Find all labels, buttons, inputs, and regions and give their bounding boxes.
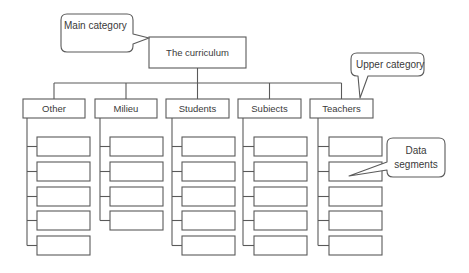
data-segment-box-students-3 (182, 187, 235, 206)
callout-data-segments-text-line1: Data (405, 145, 427, 156)
data-segment-box-other-4 (37, 211, 90, 230)
data-segment-box-other-3 (37, 187, 90, 206)
curriculum-hierarchy-diagram: The curriculum OtherMilieuStudentsSubiec… (0, 0, 469, 273)
root-node: The curriculum (149, 37, 246, 68)
callout-main-category: Main category (61, 14, 149, 52)
data-segment-box-milieu-3 (110, 187, 163, 206)
data-segment-boxes (37, 137, 382, 255)
data-segment-box-milieu-1 (110, 137, 163, 156)
data-segment-box-milieu-4 (110, 211, 163, 230)
data-segment-box-teachers-5 (329, 236, 382, 255)
category-label-other: Other (42, 103, 66, 114)
category-label-students: Students (179, 103, 217, 114)
data-segment-box-students-5 (182, 236, 235, 255)
data-segment-box-other-2 (37, 162, 90, 181)
data-segment-box-subiects-1 (254, 137, 307, 156)
data-segment-box-subiects-5 (254, 236, 307, 255)
callout-upper-category: Upper category (351, 53, 424, 98)
data-segment-box-students-1 (182, 137, 235, 156)
data-segment-box-teachers-1 (329, 137, 382, 156)
data-segment-box-subiects-3 (254, 187, 307, 206)
category-label-milieu: Milieu (114, 103, 139, 114)
data-segment-box-other-1 (37, 137, 90, 156)
callout-upper-category-text: Upper category (356, 59, 424, 70)
category-label-subiects: Subiects (251, 103, 288, 114)
data-segment-box-milieu-2 (110, 162, 163, 181)
callout-data-segments-text-line2: segments (394, 159, 437, 170)
callout-main-category-text: Main category (64, 20, 127, 31)
root-label: The curriculum (166, 47, 229, 58)
data-segment-box-teachers-4 (329, 211, 382, 230)
data-segment-box-students-4 (182, 211, 235, 230)
category-nodes: OtherMilieuStudentsSubiectsTeachers (23, 99, 373, 118)
data-segment-box-subiects-2 (254, 162, 307, 181)
data-segment-box-other-5 (37, 236, 90, 255)
data-segment-box-students-2 (182, 162, 235, 181)
category-label-teachers: Teachers (322, 103, 361, 114)
data-segment-box-subiects-4 (254, 211, 307, 230)
data-segment-box-teachers-3 (329, 187, 382, 206)
